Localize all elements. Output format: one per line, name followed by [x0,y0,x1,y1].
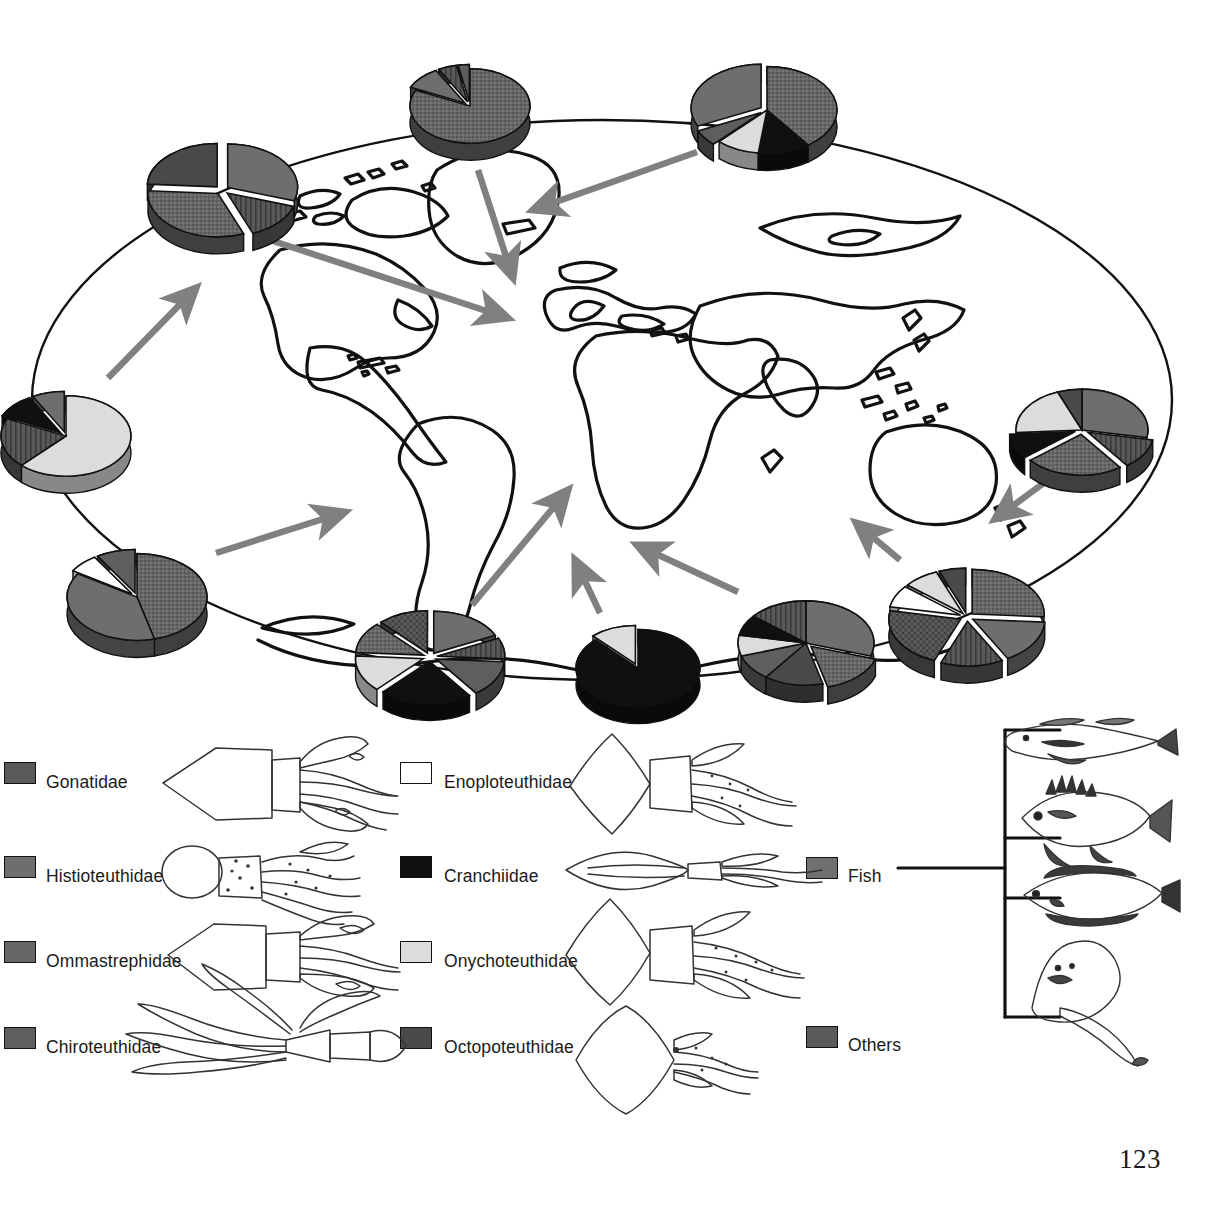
figure-root: Gonatidae Histioteuthidae Ommastrephidae… [0,0,1205,1207]
illustrations-layer [0,0,1205,1207]
enoploteuthid-squid-drawing [570,734,796,834]
ray-drawing [1032,941,1148,1066]
histioteuthid-squid-drawing [162,842,360,924]
fish-bracket [898,730,1060,1017]
ommastrephid-squid-drawing [168,916,400,997]
cranchiid-squid-drawing [566,852,822,889]
page-number: 123 [1119,1144,1161,1175]
redfish-drawing [1022,776,1172,866]
onychoteuthid-squid-drawing [566,899,804,1005]
octopoteuthid-squid-drawing [576,1006,758,1114]
flatfish-drawing [1024,866,1180,926]
hake-fish-drawing [1005,718,1178,763]
gonatid-squid-drawing [163,737,398,831]
